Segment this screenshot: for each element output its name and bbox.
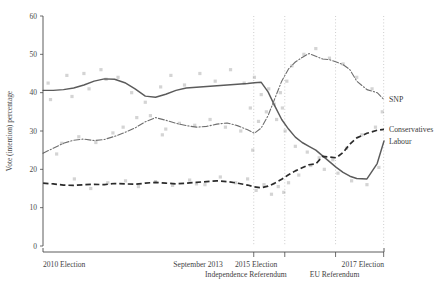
scatter-point — [219, 175, 222, 178]
line-snp — [43, 54, 384, 154]
scatter-point — [89, 187, 92, 190]
scatter-point — [294, 145, 297, 148]
scatter-point — [249, 106, 252, 109]
scatter-point — [82, 72, 85, 75]
scatter-point — [323, 168, 326, 171]
scatter-point — [77, 135, 80, 138]
scatter-point — [284, 129, 287, 132]
y-tick-label: 50 — [30, 50, 38, 59]
scatter-point — [336, 172, 339, 175]
scatter-point — [355, 76, 358, 79]
series-legend: SNPConservativesLabour — [389, 95, 433, 145]
poll-scatter-points — [47, 47, 384, 196]
x-axis-label: EU Referendum — [310, 270, 360, 279]
scatter-point — [239, 129, 242, 132]
scatter-point — [137, 185, 140, 188]
scatter-point — [253, 76, 256, 79]
scatter-point — [122, 126, 125, 129]
y-tick-label: 10 — [30, 203, 38, 212]
scatter-point — [267, 87, 270, 90]
scatter-point — [229, 68, 232, 71]
scatter-point — [365, 183, 368, 186]
scatter-point — [277, 185, 280, 188]
scatter-point — [306, 150, 309, 153]
x-axis-label: September 2013 — [173, 260, 223, 269]
scatter-point — [183, 83, 186, 86]
scatter-point — [350, 179, 353, 182]
scatter-point — [377, 166, 380, 169]
scatter-point — [94, 141, 97, 144]
legend-label-snp: SNP — [389, 95, 404, 104]
scatter-point — [65, 74, 68, 77]
scatter-point — [214, 80, 217, 83]
scatter-point — [260, 93, 263, 96]
vote-intention-line-chart: 0102030405060 Vote (intention) percentag… — [0, 0, 440, 291]
scatter-point — [328, 57, 331, 60]
scatter-point — [161, 133, 164, 136]
axes: 0102030405060 — [30, 12, 385, 252]
gridlines — [254, 16, 384, 246]
scatter-point — [297, 173, 300, 176]
x-axis-label: 2010 Election — [43, 260, 86, 269]
chart-container: 0102030405060 Vote (intention) percentag… — [0, 0, 440, 291]
scatter-point — [257, 120, 260, 123]
y-tick-label: 40 — [30, 88, 38, 97]
scatter-point — [111, 131, 114, 134]
scatter-point — [281, 106, 284, 109]
scatter-point — [331, 158, 334, 161]
scatter-point — [279, 91, 282, 94]
scatter-point — [164, 127, 167, 130]
legend-label-labour: Labour — [389, 137, 412, 146]
scatter-point — [169, 74, 172, 77]
scatter-point — [208, 118, 211, 121]
scatter-point — [124, 179, 127, 182]
y-tick-label: 20 — [30, 165, 38, 174]
x-axis-label: 2017 Election — [342, 260, 385, 269]
scatter-point — [130, 91, 133, 94]
scatter-point — [224, 126, 227, 129]
scatter-point — [282, 191, 285, 194]
y-axis-title: Vote (intention) percentage — [5, 90, 14, 171]
scatter-point — [144, 101, 147, 104]
scatter-point — [255, 189, 258, 192]
scatter-point — [99, 68, 102, 71]
scatter-point — [381, 110, 384, 113]
scatter-point — [116, 76, 119, 79]
scatter-point — [287, 181, 290, 184]
scatter-point — [285, 80, 288, 83]
scatter-point — [262, 183, 265, 186]
scatter-point — [73, 177, 76, 180]
scatter-point — [370, 87, 373, 90]
y-tick-label: 0 — [33, 242, 37, 251]
x-axis-label: Independence Referendum — [205, 270, 287, 279]
scatter-point — [135, 116, 138, 119]
scatter-point — [275, 118, 278, 121]
x-axis-label: 2015 Election — [235, 260, 278, 269]
y-tick-label: 60 — [30, 12, 38, 21]
scatter-point — [47, 81, 50, 84]
scatter-point — [203, 183, 206, 186]
scatter-point — [87, 87, 90, 90]
scatter-point — [374, 126, 377, 129]
scatter-point — [246, 177, 249, 180]
scatter-point — [314, 47, 317, 50]
scatter-point — [149, 114, 152, 117]
scatter-point — [70, 95, 73, 98]
scatter-point — [251, 149, 254, 152]
scatter-point — [198, 72, 201, 75]
y-tick-label: 30 — [30, 127, 38, 136]
scatter-point — [49, 98, 52, 101]
legend-label-conservatives: Conservatives — [389, 125, 433, 134]
scatter-point — [265, 110, 268, 113]
scatter-point — [159, 85, 162, 88]
scatter-point — [188, 178, 191, 181]
scatter-point — [55, 152, 58, 155]
scatter-point — [270, 193, 273, 196]
series-lines — [43, 54, 384, 188]
line-labour — [43, 79, 384, 179]
